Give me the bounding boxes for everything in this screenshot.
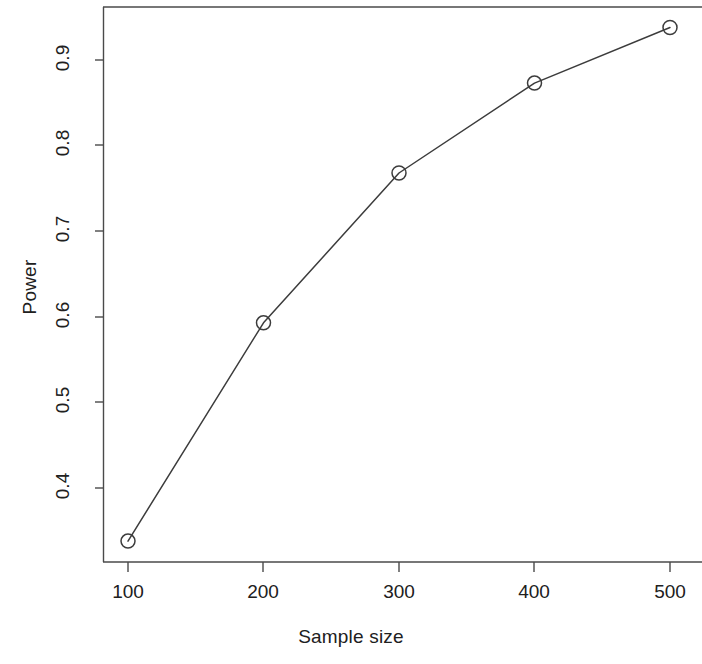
y-tick-label-0.6: 0.6	[52, 285, 74, 345]
x-tick-label-500: 500	[630, 581, 702, 603]
y-tick-label-0.8: 0.8	[52, 113, 74, 173]
power-curve-figure: 0.9 0.8 0.7 0.6 0.5 0.4 100 200 300 400 …	[0, 0, 702, 664]
x-tick-label-100: 100	[88, 581, 168, 603]
x-tick-label-200: 200	[223, 581, 303, 603]
y-tick-label-0.9: 0.9	[52, 28, 74, 88]
x-axis-ticks	[128, 562, 670, 572]
x-tick-label-400: 400	[494, 581, 574, 603]
y-axis-ticks	[95, 60, 103, 488]
y-tick-label-0.5: 0.5	[52, 370, 74, 430]
x-tick-label-300: 300	[359, 581, 439, 603]
power-markers	[121, 21, 677, 549]
y-axis-title: Power	[19, 227, 41, 347]
power-line	[128, 28, 670, 542]
y-tick-label-0.4: 0.4	[52, 456, 74, 516]
x-axis-title: Sample size	[0, 626, 702, 648]
plot-frame	[103, 7, 702, 562]
y-tick-label-0.7: 0.7	[52, 199, 74, 259]
plot-area	[0, 0, 702, 664]
